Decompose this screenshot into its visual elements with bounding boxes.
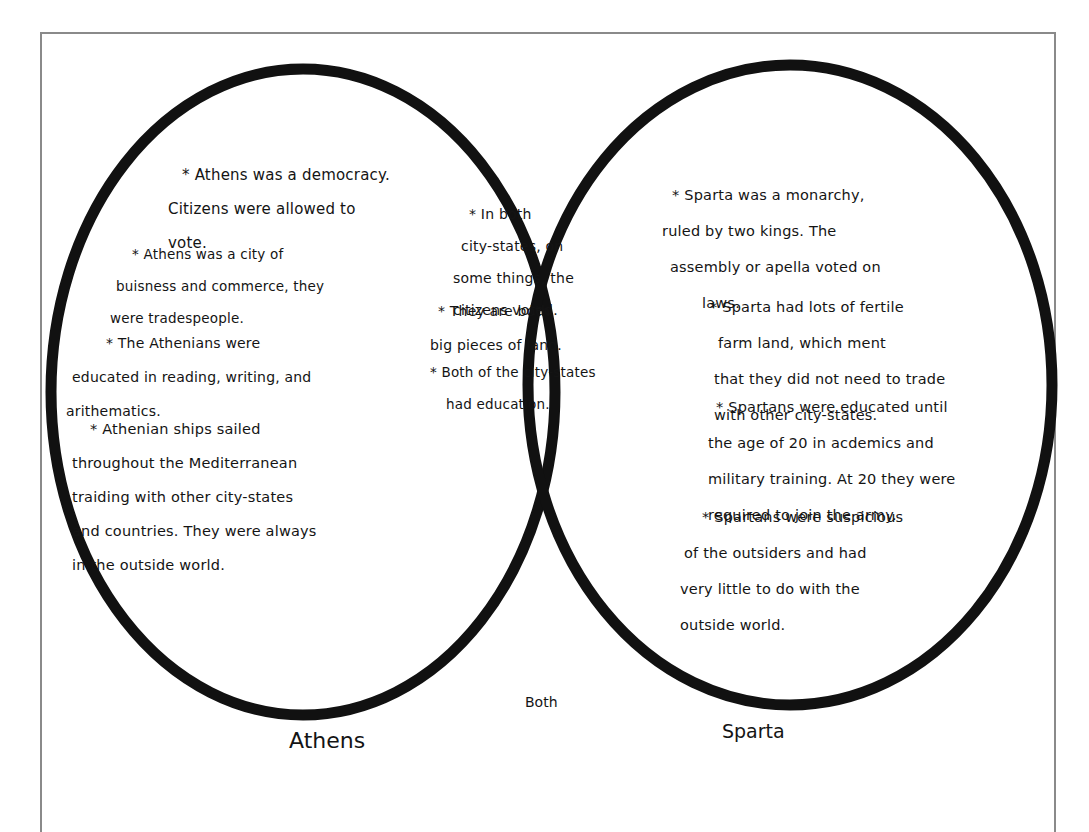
note-line: and countries. They were always — [72, 523, 392, 540]
note-line: city-states, on — [453, 238, 633, 254]
label-both: Both — [525, 694, 558, 710]
note-line: outside world. — [680, 616, 990, 634]
note-line: educated in reading, writing, and — [66, 369, 386, 386]
note-line: * Spartans were suspicious — [680, 508, 990, 526]
note-line: * Athenian ships sailed — [72, 421, 392, 438]
note-line: * In both — [453, 206, 633, 222]
note-line: traiding with other city-states — [72, 489, 392, 506]
note-line: * Spartans were educated until — [708, 398, 1048, 416]
note-line: buisness and commerce, they — [110, 278, 410, 294]
note-line: military training. At 20 they were — [708, 470, 1048, 488]
note-line: throughout the Mediterranean — [72, 455, 392, 472]
label-sparta: Sparta — [722, 720, 785, 742]
note-line: Citizens were allowed to — [168, 201, 438, 218]
note-line: * Athens was a democracy. — [168, 167, 438, 184]
both-note-education: * Both of the city-states had education. — [430, 348, 670, 428]
sparta-note-outsiders: * Spartans were suspicious of the outsid… — [680, 490, 990, 652]
note-line: in the outside world. — [72, 557, 392, 574]
note-line: the age of 20 in acdemics and — [708, 434, 1048, 452]
note-line: ruled by two kings. The — [662, 222, 982, 240]
note-line: * Both of the city-states — [430, 364, 670, 380]
note-line: * Sparta had lots of fertile — [710, 298, 1030, 316]
note-line: some things, the — [453, 270, 633, 286]
note-line: assembly or apella voted on — [662, 258, 982, 276]
note-line: had education. — [430, 396, 670, 412]
athens-note-ships: * Athenian ships sailed throughout the M… — [72, 404, 392, 591]
label-athens: Athens — [289, 728, 365, 753]
note-line: of the outsiders and had — [680, 544, 990, 562]
note-line: * They are both — [430, 303, 630, 320]
note-line: very little to do with the — [680, 580, 990, 598]
note-line: * The Athenians were — [66, 335, 386, 352]
note-line: * Athens was a city of — [110, 246, 410, 262]
note-line: farm land, which ment — [710, 334, 1030, 352]
note-line: * Sparta was a monarchy, — [662, 186, 982, 204]
